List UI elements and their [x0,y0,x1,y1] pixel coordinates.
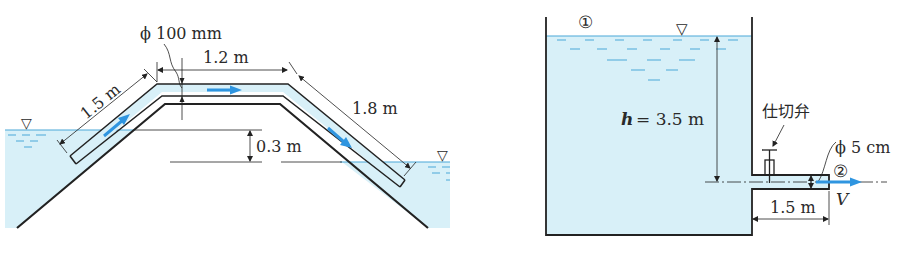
valve-leader-arrow [773,125,784,146]
siphon-figure: 1.5 m 1.2 m ϕ 100 mm 1.8 m 0.3 m ▽ ▽ [5,24,450,228]
velocity-label: V [836,189,850,209]
pipe-diameter-label: ϕ 100 mm [140,24,222,43]
tank-figure: ▽ ① h = 3.5 m 仕切弁 ϕ 5 cm ② V [546,12,890,235]
point-2-label: ② [833,161,848,181]
diameter-arrow-icon [180,96,185,102]
dim-ext-line [144,69,157,82]
pipe-diameter-label: ϕ 5 cm [835,138,890,157]
dim-ext-line [289,62,297,74]
free-surface-symbol-left: ▽ [21,115,32,131]
top-segment-length-label: 1.2 m [203,48,249,67]
diameter-arrow-icon [180,78,185,84]
point-1-label: ① [578,12,593,32]
head-variable-label: h [621,109,633,129]
free-surface-symbol: ▽ [676,20,688,38]
level-difference-label: 0.3 m [256,137,302,156]
leader-line [164,44,182,88]
free-surface-symbol-right: ▽ [437,147,448,163]
diagram-canvas: 1.5 m 1.2 m ϕ 100 mm 1.8 m 0.3 m ▽ ▽ [0,0,897,267]
gate-valve-label: 仕切弁 [762,102,810,121]
down-segment-length-label: 1.8 m [352,99,398,118]
pipe-length-label: 1.5 m [770,198,816,217]
head-value-label: = 3.5 m [636,109,704,129]
